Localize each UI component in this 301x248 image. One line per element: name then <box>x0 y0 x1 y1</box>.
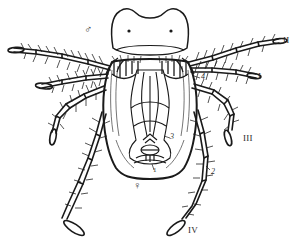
male-symbol-label: ♂ <box>84 24 92 35</box>
seta-4-label: 4 <box>201 73 205 81</box>
leg-3-label: III <box>243 134 253 143</box>
leg-4-label: IV <box>188 226 198 235</box>
mite-illustration: ♂ ♀ II I III IV 4 3 2 1 <box>0 0 301 248</box>
seta-1-label: 1 <box>153 167 157 174</box>
seta-3-label: 3 <box>170 133 174 141</box>
seta-2-label: 2 <box>211 168 215 176</box>
illustration-canvas <box>0 0 301 248</box>
female-symbol-label: ♀ <box>133 180 141 191</box>
leg-1-label: I <box>258 72 261 81</box>
leg-2-label: II <box>283 36 290 45</box>
